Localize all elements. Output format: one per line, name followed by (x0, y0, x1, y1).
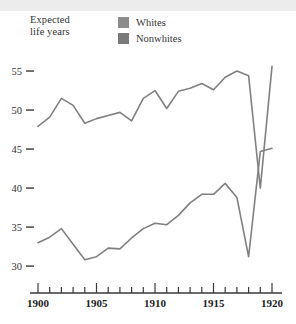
y-tick-label: 55 (12, 66, 23, 77)
y-tick-label: 45 (12, 144, 23, 155)
x-tick-label: 1910 (144, 297, 167, 309)
series-line-whites (38, 66, 272, 188)
y-tick-label: 30 (12, 261, 23, 272)
y-axis-ticks: 303540455055 (12, 66, 35, 272)
x-tick-label: 1920 (261, 297, 284, 309)
data-series-group (38, 66, 272, 259)
x-tick-label: 1915 (203, 297, 226, 309)
x-tick-label: 1905 (86, 297, 109, 309)
series-line-nonwhites (38, 148, 272, 260)
plot-area: 303540455055 19001905191019151920 (0, 0, 296, 324)
x-axis: 19001905191019151920 (27, 283, 284, 309)
y-tick-label: 40 (12, 183, 23, 194)
y-tick-label: 35 (12, 222, 23, 233)
y-tick-label: 50 (12, 105, 23, 116)
x-tick-label: 1900 (27, 297, 50, 309)
life-expectancy-chart-figure: Expected life years Whites Nonwhites 303… (0, 0, 296, 324)
